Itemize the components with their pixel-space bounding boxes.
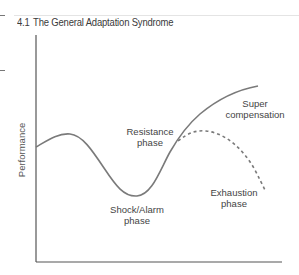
gas-chart: Performance Resistance phase Shock/Alarm…	[0, 0, 299, 275]
shock-label-line1: Shock/Alarm	[110, 204, 164, 215]
resistance-label-line1: Resistance	[127, 126, 174, 137]
exhaustion-label-line1: Exhaustion	[210, 187, 257, 198]
y-axis-label: Performance	[16, 123, 27, 177]
shock-label-line2: phase	[124, 215, 150, 226]
exhaustion-curve	[178, 131, 265, 190]
exhaustion-label-line2: phase	[221, 198, 247, 209]
resistance-label-line2: phase	[137, 137, 163, 148]
super-compensation-label-line1: Super	[242, 98, 267, 109]
super-compensation-label-line2: compensation	[225, 109, 284, 120]
